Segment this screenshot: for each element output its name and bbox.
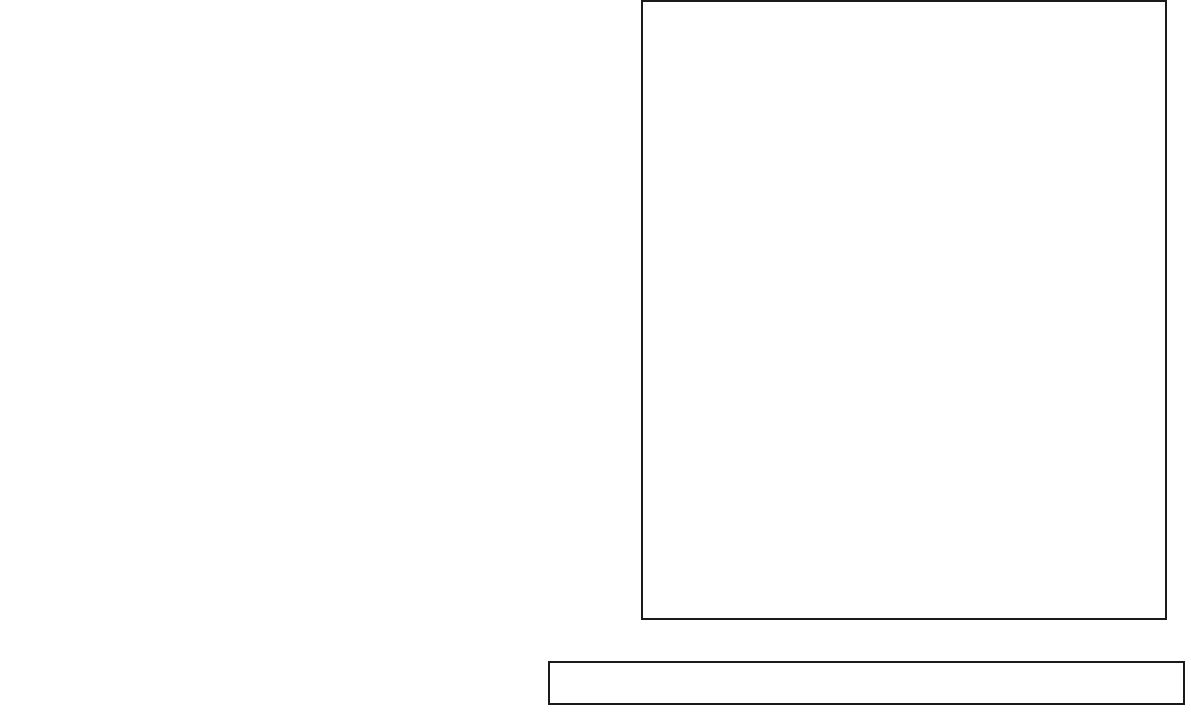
chart-legend [548,661,1185,705]
plot-area [641,0,1167,620]
category-label-column [0,0,634,620]
x-axis [641,620,1167,660]
stacked-bar-chart [0,0,1191,720]
plot-inner [643,2,1165,618]
